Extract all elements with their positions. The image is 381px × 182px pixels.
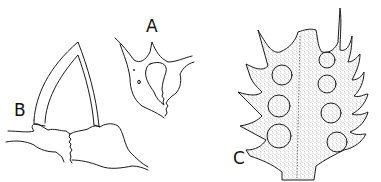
panel-c-drawing bbox=[238, 8, 368, 180]
panel-label-b: B bbox=[14, 102, 26, 119]
panel-b-drawing bbox=[6, 42, 148, 170]
line-drawing bbox=[0, 0, 381, 182]
panel-a-drawing bbox=[115, 38, 194, 118]
figure: A B C bbox=[0, 0, 381, 182]
panel-label-c: C bbox=[233, 150, 245, 167]
panel-label-a: A bbox=[146, 18, 158, 35]
